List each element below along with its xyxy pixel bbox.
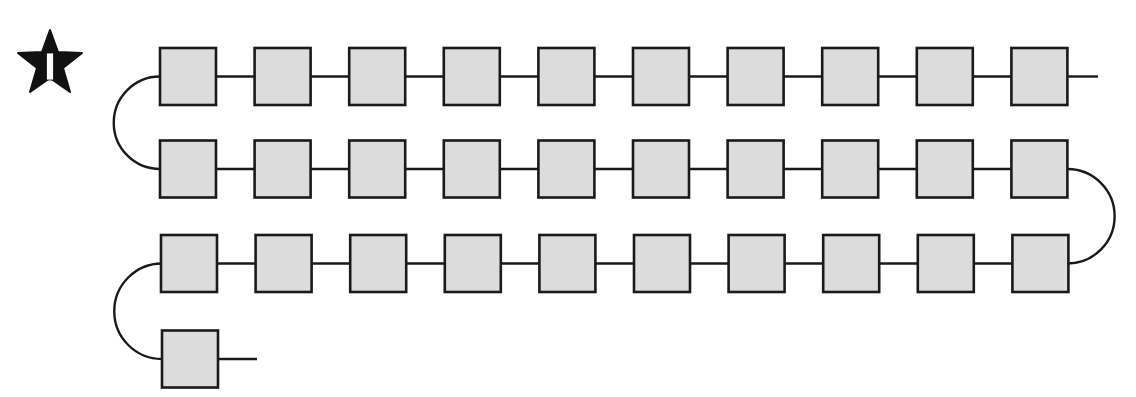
chain-box <box>255 48 311 105</box>
chain-box <box>633 141 689 198</box>
chain-box <box>350 235 406 292</box>
badge-number: 1 <box>20 54 84 106</box>
chain-box <box>917 141 973 198</box>
chain-box <box>1011 141 1067 198</box>
chain-box <box>918 235 974 292</box>
turn-arc-left <box>114 264 162 360</box>
chain-box <box>917 48 973 105</box>
chain-box <box>255 141 311 198</box>
chain-box <box>444 141 500 198</box>
chain-box <box>822 141 878 198</box>
chain-box <box>822 48 878 105</box>
chain-box <box>728 141 784 198</box>
turn-arc-left <box>114 77 160 170</box>
chain-box <box>633 48 689 105</box>
chain-box <box>256 235 312 292</box>
chain-box <box>349 48 405 105</box>
serpentine-diagram <box>0 0 1136 397</box>
box-chain <box>114 48 1115 388</box>
turn-arc-right <box>1067 169 1114 264</box>
chain-box <box>538 48 594 105</box>
chain-box <box>160 141 216 198</box>
chain-box <box>1012 235 1068 292</box>
chain-box <box>729 235 785 292</box>
chain-box <box>160 48 216 105</box>
chain-box <box>823 235 879 292</box>
chain-box <box>634 235 690 292</box>
chain-box <box>349 141 405 198</box>
chain-box <box>161 235 217 292</box>
chain-box <box>728 48 784 105</box>
chain-box <box>538 141 594 198</box>
chain-box <box>444 48 500 105</box>
chain-box <box>445 235 501 292</box>
chain-box <box>162 331 218 388</box>
chain-box <box>539 235 595 292</box>
chain-box <box>1011 48 1067 105</box>
